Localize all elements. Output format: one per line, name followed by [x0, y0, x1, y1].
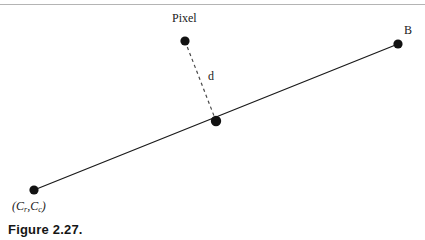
coord-col-subscript: c	[38, 205, 42, 214]
coord-col-symbol: C	[30, 199, 38, 213]
point-foot-of-perpendicular	[211, 116, 221, 126]
figure-diagram	[0, 0, 425, 240]
label-endpoint-coordinates: (Cr,Cc)	[12, 200, 46, 212]
label-distance-d: d	[208, 70, 214, 82]
point-c-endpoint	[29, 185, 38, 194]
figure-caption: Figure 2.27.	[8, 222, 83, 237]
label-endpoint-b: B	[404, 24, 412, 36]
paren-close: )	[42, 199, 46, 213]
coord-row-subscript: r	[24, 205, 27, 214]
point-pixel	[180, 36, 189, 45]
coord-row-symbol: C	[16, 199, 24, 213]
figure-page: Pixel B d (Cr,Cc) Figure 2.27.	[0, 0, 425, 240]
label-pixel: Pixel	[172, 12, 197, 24]
point-b-endpoint	[393, 39, 402, 48]
